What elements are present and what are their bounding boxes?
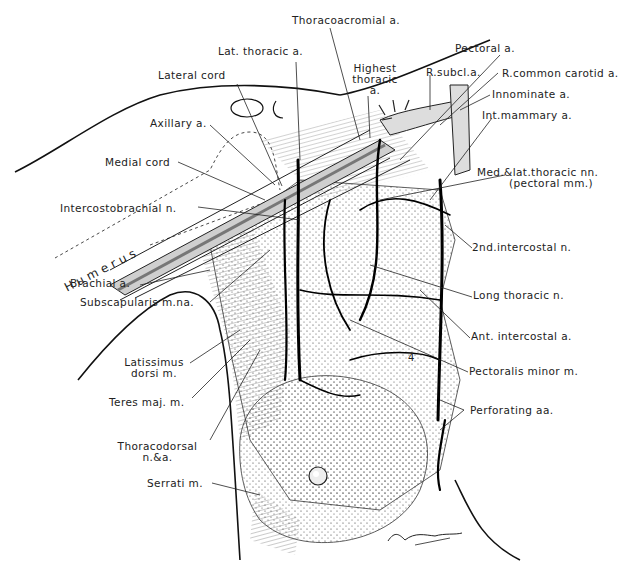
- label-right-subclavian-artery: R.subcl.a.: [426, 67, 481, 78]
- label-teres-major: Teres maj. m.: [109, 397, 184, 408]
- label-latissimus-dorsi: Latissimus dorsi m.: [115, 357, 193, 379]
- label-perforating-arteries: Perforating aa.: [470, 405, 554, 416]
- label-intercostobrachial-nerve: Intercostobrachial n.: [60, 203, 176, 214]
- region-number: 4: [408, 352, 414, 363]
- label-thoracodorsal: Thoracodorsal n.&a.: [100, 441, 215, 463]
- label-subscapularis: Subscapularis m.na.: [80, 297, 194, 308]
- label-internal-mammary-artery: Int.mammary a.: [482, 110, 572, 121]
- label-lateral-cord: Lateral cord: [158, 70, 226, 81]
- label-medial-cord: Medial cord: [105, 157, 170, 168]
- label-serrati: Serrati m.: [147, 478, 203, 489]
- label-2nd-intercostal-nerve: 2nd.intercostal n.: [472, 242, 571, 253]
- label-long-thoracic-nerve: Long thoracic n.: [473, 290, 564, 301]
- label-pectoralis-minor: Pectoralis minor m.: [469, 366, 578, 377]
- label-medial-lateral-thoracic-nerves: Med.&lat.thoracic nn. (pectoral mm.): [477, 167, 598, 189]
- label-highest-thoracic-artery: Highest thoracic a.: [352, 63, 398, 96]
- label-lateral-thoracic-artery: Lat. thoracic a.: [218, 46, 303, 57]
- label-brachial-artery: Brachial a.: [70, 278, 130, 289]
- label-innominate-artery: Innominate a.: [492, 89, 570, 100]
- label-pectoral-artery: Pectoral a.: [455, 43, 515, 54]
- label-right-common-carotid-artery: R.common carotid a.: [502, 68, 618, 79]
- label-thoracoacromial-artery: Thoracoacromial a.: [292, 15, 400, 26]
- label-anterior-intercostal-artery: Ant. intercostal a.: [471, 331, 572, 342]
- label-axillary-artery: Axillary a.: [150, 118, 207, 129]
